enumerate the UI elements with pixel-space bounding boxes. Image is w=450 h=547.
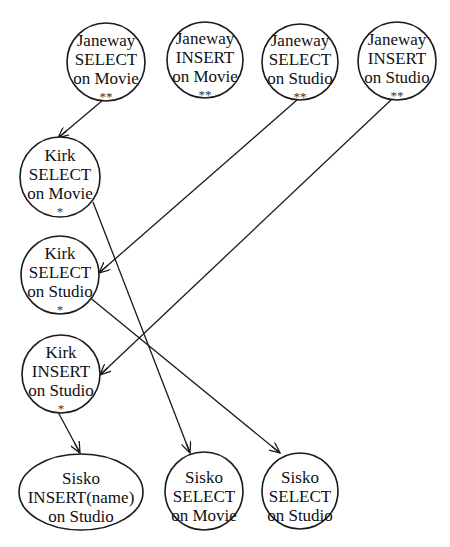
node-janeway-select-movie: JanewaySELECTon Movie** <box>67 23 145 104</box>
node-user: Sisko <box>62 469 100 488</box>
node-mark: ** <box>294 89 307 104</box>
node-user: Kirk <box>45 343 77 362</box>
node-target: on Movie <box>73 69 139 88</box>
edge-janeway-select-movie-to-kirk-select-movie <box>58 100 103 138</box>
node-user: Sisko <box>185 468 223 487</box>
edge-kirk-select-studio-to-sisko-select-studio <box>88 296 280 453</box>
node-sisko-select-studio: SiskoSELECTon Studio <box>262 453 338 529</box>
node-kirk-select-studio: KirkSELECTon Studio* <box>21 236 99 317</box>
node-sisko-insert-name-studio: SiskoINSERT(name)on Studio <box>19 454 143 530</box>
node-mark: * <box>58 401 65 416</box>
edge-kirk-select-movie-to-sisko-select-movie <box>93 202 190 453</box>
edge-janeway-select-studio-to-kirk-select-studio <box>99 100 297 273</box>
node-target: on Movie <box>27 184 93 203</box>
nodes-layer: JanewaySELECTon Movie**JanewayINSERTon M… <box>19 22 436 530</box>
node-mark: ** <box>199 87 212 102</box>
node-user: Janeway <box>271 31 330 50</box>
node-janeway-select-studio: JanewaySELECTon Studio** <box>262 24 338 104</box>
node-janeway-insert-studio: JanewayINSERTon Studio** <box>358 22 436 103</box>
node-target: on Studio <box>28 381 94 400</box>
node-target: on Movie <box>171 506 237 525</box>
node-target: on Studio <box>48 507 114 526</box>
node-action: INSERT(name) <box>28 488 135 507</box>
node-user: Kirk <box>44 146 76 165</box>
node-janeway-insert-movie: JanewayINSERTon Movie** <box>167 22 243 102</box>
node-kirk-insert-studio: KirkINSERTon Studio* <box>22 335 100 416</box>
node-user: Janeway <box>368 30 427 49</box>
precedence-diagram: JanewaySELECTon Movie**JanewayINSERTon M… <box>0 0 450 547</box>
node-action: INSERT <box>32 362 91 381</box>
node-action: INSERT <box>176 48 235 67</box>
node-action: SELECT <box>29 263 92 282</box>
node-sisko-select-movie: SiskoSELECTon Movie <box>165 452 243 530</box>
edge-kirk-insert-studio-to-sisko-insert-name-studio <box>58 412 80 453</box>
node-action: SELECT <box>269 50 332 69</box>
node-target: on Movie <box>172 67 238 86</box>
node-action: INSERT <box>368 49 427 68</box>
node-user: Janeway <box>77 31 136 50</box>
node-action: SELECT <box>269 487 332 506</box>
node-action: SELECT <box>75 50 138 69</box>
node-target: on Studio <box>267 69 333 88</box>
node-user: Sisko <box>281 468 319 487</box>
edges-layer <box>58 99 392 453</box>
node-target: on Studio <box>267 506 333 525</box>
node-mark: * <box>57 302 64 317</box>
node-action: SELECT <box>173 487 236 506</box>
node-target: on Studio <box>27 282 93 301</box>
node-action: SELECT <box>29 165 92 184</box>
node-user: Janeway <box>176 29 235 48</box>
node-kirk-select-movie: KirkSELECTon Movie* <box>20 137 100 219</box>
node-mark: ** <box>391 88 404 103</box>
node-user: Kirk <box>44 244 76 263</box>
node-mark: ** <box>100 89 113 104</box>
node-mark: * <box>57 204 64 219</box>
node-target: on Studio <box>364 68 430 87</box>
